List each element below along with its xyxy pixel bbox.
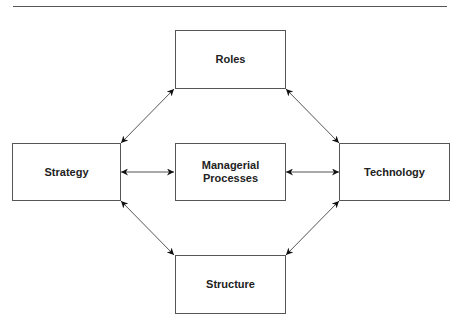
node-managerial-label: Managerial Processes [202,159,259,185]
node-roles: Roles [175,30,286,89]
node-managerial-processes: Managerial Processes [175,143,286,201]
node-technology-label: Technology [364,166,425,179]
arrow-roles-technology [286,89,339,143]
node-strategy-label: Strategy [44,166,88,179]
node-strategy: Strategy [12,143,121,201]
node-structure: Structure [175,255,286,314]
arrow-strategy-roles [121,89,174,143]
node-technology: Technology [339,143,450,201]
arrow-strategy-structure [121,201,174,255]
node-roles-label: Roles [216,53,246,66]
node-structure-label: Structure [206,278,255,291]
arrow-structure-technology [286,201,339,255]
